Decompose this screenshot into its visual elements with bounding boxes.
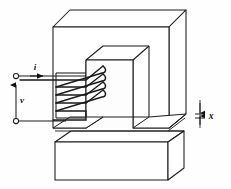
gap-label: x xyxy=(208,111,214,121)
core-right-face xyxy=(169,10,186,128)
gap-dimension xyxy=(195,100,205,128)
armature-top-face xyxy=(55,131,184,142)
terminal-bottom[interactable] xyxy=(13,118,18,123)
current-label: i xyxy=(34,62,37,72)
core-top-face xyxy=(53,10,186,27)
diagram-svg: i v x xyxy=(0,0,231,189)
voltage-label: v xyxy=(20,95,25,105)
armature-block xyxy=(55,131,184,180)
electromagnet-figure: i v x xyxy=(0,0,231,189)
terminal-top[interactable] xyxy=(13,73,18,78)
c-core xyxy=(53,10,186,128)
armature-front-face xyxy=(55,142,168,180)
